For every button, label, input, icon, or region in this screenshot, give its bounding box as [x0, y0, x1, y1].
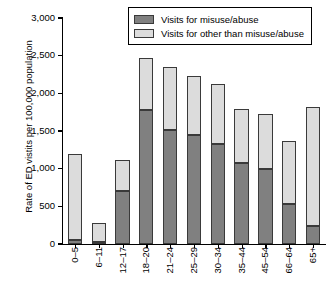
x-axis-label-11: 65+: [306, 247, 320, 287]
chart-legend: Visits for misuse/abuse Visits for other…: [128, 7, 312, 45]
bar-stack: [187, 76, 201, 244]
x-axis-label-text: 18–20: [141, 247, 151, 273]
bar-stack: [282, 141, 296, 244]
bar-segment-misuse-abuse: [258, 169, 272, 244]
bar-segment-misuse-abuse: [234, 163, 248, 244]
plot-area: [63, 18, 325, 244]
x-axis-label-text: 25–29: [189, 247, 199, 273]
legend-item-other-than-misuse-abuse: Visits for other than misuse/abuse: [134, 26, 304, 40]
x-axis-label-text: 21–24: [165, 247, 175, 273]
y-axis-tick-mark: [58, 93, 62, 94]
bar-segment-other-than-misuse-abuse: [92, 223, 106, 242]
x-axis-label-text: 30–34: [213, 247, 223, 273]
y-axis-tick-label: 0: [50, 238, 55, 250]
bar-stack: [115, 160, 129, 244]
bar-segment-misuse-abuse: [68, 240, 82, 244]
y-axis-tick-mark: [58, 243, 62, 244]
y-axis-tick-mark: [58, 17, 62, 18]
bar-segment-misuse-abuse: [115, 191, 129, 244]
bar-segment-misuse-abuse: [187, 135, 201, 244]
x-axis-label-text: 6–11: [94, 247, 104, 267]
y-axis-tick-mark: [58, 130, 62, 131]
bar-stack: [234, 109, 248, 244]
legend-label-misuse-abuse: Visits for misuse/abuse: [161, 14, 259, 25]
bar-stack: [139, 58, 153, 244]
bar-segment-other-than-misuse-abuse: [282, 141, 296, 204]
bar-segment-other-than-misuse-abuse: [306, 107, 320, 226]
bar-segment-misuse-abuse: [306, 226, 320, 244]
x-axis-label-6: 25–29: [187, 247, 201, 287]
bar-segment-misuse-abuse: [163, 130, 177, 244]
x-axis-label-1: 0–5: [68, 247, 82, 287]
y-axis-tick-label: 2,000: [31, 87, 55, 99]
legend-item-misuse-abuse: Visits for misuse/abuse: [134, 12, 304, 26]
x-axis-label-text: 65+: [308, 247, 318, 263]
x-axis-label-text: 35–44: [237, 247, 247, 273]
x-axis-label-7: 30–34: [211, 247, 225, 287]
bar-stack: [258, 114, 272, 244]
bar-segment-other-than-misuse-abuse: [115, 160, 129, 191]
y-axis-tick-mark: [58, 55, 62, 56]
x-axis-label-3: 12–17: [115, 247, 129, 287]
x-axis-label-2: 6–11: [92, 247, 106, 287]
y-axis-tick-label: 1,500: [31, 125, 55, 137]
bar-segment-misuse-abuse: [139, 110, 153, 244]
x-axis-label-text: 66–64: [284, 247, 294, 273]
bar-segment-other-than-misuse-abuse: [258, 114, 272, 168]
light-gray-swatch-icon: [134, 29, 154, 38]
y-axis-tick-label: 3,000: [31, 12, 55, 24]
x-axis-label-5: 21–24: [163, 247, 177, 287]
y-axis-tick-label: 1,000: [31, 162, 55, 174]
bar-stack: [92, 223, 106, 244]
legend-label-other-than-misuse-abuse: Visits for other than misuse/abuse: [161, 28, 304, 39]
y-axis-tick-label: 2,500: [31, 49, 55, 61]
bar-segment-other-than-misuse-abuse: [163, 67, 177, 130]
bar-segment-other-than-misuse-abuse: [234, 109, 248, 163]
bar-stack: [163, 67, 177, 244]
bar-segment-other-than-misuse-abuse: [211, 84, 225, 144]
bar-stack: [211, 84, 225, 244]
x-axis-label-text: 45–54: [260, 247, 270, 273]
x-axis-label-text: 0–5: [70, 247, 80, 263]
x-axis-label-8: 35–44: [234, 247, 248, 287]
bar-stack: [68, 154, 82, 244]
x-axis-label-4: 18–20: [139, 247, 153, 287]
x-axis-label-10: 66–64: [282, 247, 296, 287]
bar-segment-other-than-misuse-abuse: [187, 76, 201, 135]
bar-segment-misuse-abuse: [282, 204, 296, 244]
bar-segment-other-than-misuse-abuse: [139, 58, 153, 110]
y-axis-tick-mark: [58, 206, 62, 207]
dark-gray-swatch-icon: [134, 15, 154, 24]
x-axis-label-9: 45–54: [258, 247, 272, 287]
x-axis-label-text: 12–17: [118, 247, 128, 273]
y-axis-tick-mark: [58, 168, 62, 169]
y-axis-tick-label: 500: [39, 200, 55, 212]
bar-segment-other-than-misuse-abuse: [68, 154, 82, 240]
ed-visits-stacked-bar-chart: Rate of ED vistits per 100,000 populatio…: [0, 0, 331, 287]
bar-stack: [306, 107, 320, 244]
bar-segment-misuse-abuse: [211, 144, 225, 244]
